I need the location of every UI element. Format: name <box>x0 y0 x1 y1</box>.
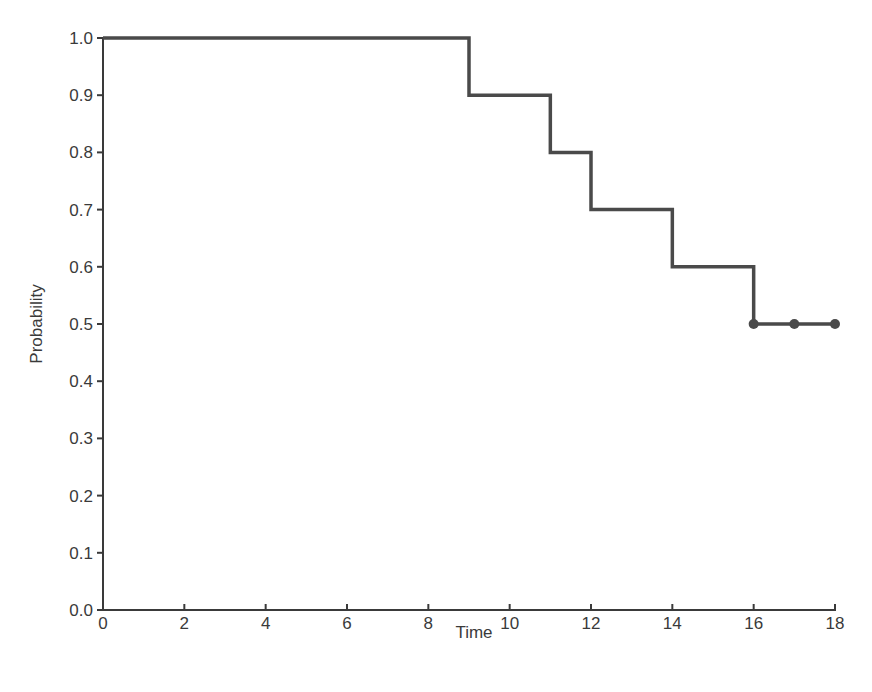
x-tick-label: 6 <box>342 614 351 633</box>
y-axis-ticks: 0.00.10.20.30.40.50.60.70.80.91.0 <box>69 29 103 620</box>
survival-chart: 0.00.10.20.30.40.50.60.70.80.91.0 024681… <box>0 0 872 692</box>
y-axis-title: Probability <box>27 284 46 364</box>
x-tick-label: 10 <box>500 614 519 633</box>
survival-step-line <box>103 38 835 324</box>
x-tick-label: 4 <box>261 614 270 633</box>
x-tick-label: 12 <box>582 614 601 633</box>
y-tick-label: 0.3 <box>69 429 93 448</box>
x-tick-label: 14 <box>663 614 682 633</box>
y-tick-label: 0.7 <box>69 201 93 220</box>
x-tick-label: 0 <box>98 614 107 633</box>
y-tick-label: 0.2 <box>69 487 93 506</box>
y-tick-label: 1.0 <box>69 29 93 48</box>
y-tick-label: 0.9 <box>69 86 93 105</box>
y-tick-label: 0.1 <box>69 544 93 563</box>
censored-marker <box>749 319 759 329</box>
x-tick-label: 2 <box>180 614 189 633</box>
x-tick-label: 8 <box>424 614 433 633</box>
y-tick-label: 0.6 <box>69 258 93 277</box>
y-tick-label: 0.8 <box>69 143 93 162</box>
censored-marker <box>789 319 799 329</box>
y-tick-label: 0.4 <box>69 372 93 391</box>
x-axis-title: Time <box>455 623 492 642</box>
y-tick-label: 0.5 <box>69 315 93 334</box>
x-tick-label: 16 <box>744 614 763 633</box>
censored-marker <box>830 319 840 329</box>
x-tick-label: 18 <box>826 614 845 633</box>
y-tick-label: 0.0 <box>69 601 93 620</box>
